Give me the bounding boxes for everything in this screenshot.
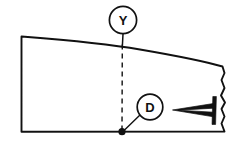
crack-end-bar-icon [212,97,216,125]
leader-line-y [122,34,123,46]
callout-bubble-y[interactable]: Y [109,6,136,33]
callout-bubble-d[interactable]: D [137,94,163,120]
datum-point [118,128,125,135]
technical-drawing-canvas: Y D [0,0,242,149]
callout-label-d: D [145,100,154,115]
drawing-svg: Y D [0,0,242,149]
callout-label-y: Y [119,13,128,28]
